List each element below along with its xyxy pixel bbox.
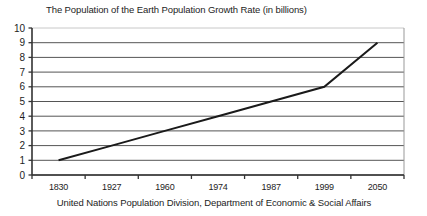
y-tick-label-2: 2 bbox=[19, 140, 25, 151]
y-tick-label-8: 8 bbox=[19, 52, 25, 63]
x-tick-label-1974: 1974 bbox=[208, 182, 227, 192]
y-tick-label-6: 6 bbox=[19, 81, 25, 92]
y-tick-label-4: 4 bbox=[19, 111, 25, 122]
population-growth-chart: The Population of the Earth Population G… bbox=[0, 0, 427, 216]
x-axis-group: 1830192719601974198719992050 bbox=[32, 175, 404, 192]
y-tick-label-0: 0 bbox=[19, 170, 25, 181]
chart-plot-area: 012345678910 183019271960197419871999205… bbox=[0, 0, 427, 216]
x-tick-label-1830: 1830 bbox=[49, 182, 68, 192]
x-tick-label-1927: 1927 bbox=[102, 182, 121, 192]
x-tick-label-1960: 1960 bbox=[155, 182, 174, 192]
y-tick-label-10: 10 bbox=[14, 23, 26, 34]
chart-source-caption: United Nations Population Division, Depa… bbox=[28, 196, 400, 209]
x-tick-label-1999: 1999 bbox=[315, 182, 334, 192]
y-tick-label-3: 3 bbox=[19, 126, 25, 137]
x-tick-label-2050: 2050 bbox=[368, 182, 387, 192]
y-tick-label-7: 7 bbox=[19, 67, 25, 78]
y-tick-label-9: 9 bbox=[19, 37, 25, 48]
y-axis-group: 012345678910 bbox=[14, 23, 32, 181]
y-tick-label-5: 5 bbox=[19, 96, 25, 107]
y-tick-label-1: 1 bbox=[19, 155, 25, 166]
x-tick-label-1987: 1987 bbox=[262, 182, 281, 192]
